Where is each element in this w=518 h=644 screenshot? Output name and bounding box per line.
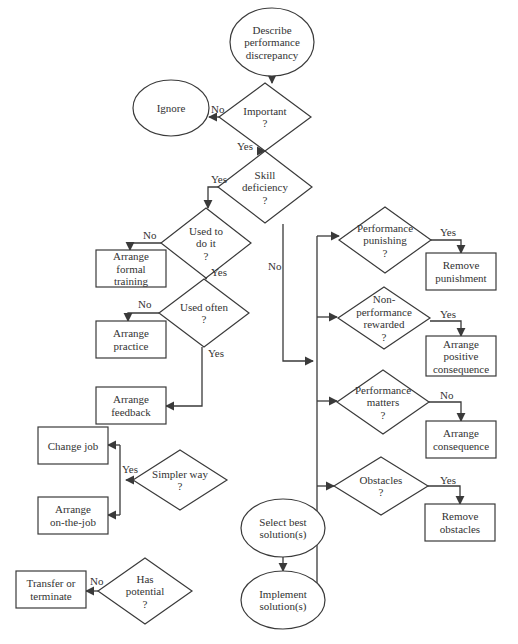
node-perf-matters: Performancematters?: [337, 370, 429, 434]
node-label: ?: [143, 598, 148, 610]
edge-label: No: [90, 575, 104, 587]
node-implement: Implementsolution(s): [241, 571, 325, 629]
node-label: Change job: [48, 440, 99, 452]
node-label: Select best: [259, 516, 306, 528]
node-label: ?: [382, 331, 387, 343]
node-arrange-consequence: Arrangeconsequence: [426, 421, 496, 458]
node-label: Important: [243, 105, 286, 117]
node-label: Performance: [355, 384, 411, 396]
node-label: on-the-job: [50, 516, 96, 528]
node-label: Used often: [180, 301, 228, 313]
node-label: solution(s): [259, 600, 306, 613]
node-label: punishing: [363, 234, 407, 246]
node-label: potential: [126, 585, 165, 597]
edge-label: Yes: [440, 308, 456, 320]
node-label: practice: [114, 340, 149, 352]
node-layer: DescribeperformancediscrepancyImportant?…: [16, 8, 496, 629]
connector-punishing-remove: [431, 240, 461, 253]
connector-rewarded-positive: [430, 321, 461, 336]
node-select-best: Select bestsolution(s): [241, 499, 325, 557]
connector-obstacles-remove: [428, 486, 460, 504]
node-label: Obstacles: [360, 474, 403, 486]
node-label: Arrange: [443, 338, 479, 350]
node-describe: Describeperformancediscrepancy: [230, 8, 314, 76]
node-label: Arrange: [55, 503, 91, 515]
node-label: training: [114, 275, 149, 287]
node-label: solution(s): [259, 528, 306, 541]
node-transfer: Transfer orterminate: [16, 571, 86, 608]
node-label: consequence: [433, 363, 489, 375]
node-label: Arrange: [113, 327, 149, 339]
connector-usedoften-feedback: [166, 347, 202, 406]
node-label: feedback: [111, 406, 151, 418]
connector-matters-consequence: [429, 402, 461, 421]
node-important: Important?: [219, 83, 311, 151]
edge-label: No: [440, 389, 454, 401]
node-label: Skill: [255, 169, 276, 181]
node-label: Non-: [373, 293, 396, 305]
node-label: ?: [383, 247, 388, 259]
node-label: ?: [204, 250, 209, 262]
node-label: formal: [116, 263, 145, 275]
node-label: ?: [263, 194, 268, 206]
node-practice: Arrangepractice: [96, 321, 166, 358]
node-has-potential: Haspotential?: [98, 558, 192, 624]
connector-skill-no-trunk: [283, 224, 313, 361]
node-label: Performance: [357, 222, 413, 234]
node-label: matters: [367, 396, 399, 408]
node-label: deficiency: [242, 181, 288, 193]
edge-label: No: [268, 260, 282, 272]
edge-label: Yes: [211, 266, 227, 278]
node-label: ?: [379, 486, 384, 498]
node-label: rewarded: [364, 318, 405, 330]
node-label: Arrange: [443, 427, 479, 439]
node-nonperf-rewarded: Non-performancerewarded?: [338, 287, 430, 349]
edge-label: Yes: [122, 463, 138, 475]
node-label: Used to: [189, 225, 223, 237]
node-label: discrepancy: [246, 49, 299, 61]
edge-label: Yes: [211, 173, 227, 185]
node-on-the-job: Arrangeon-the-job: [38, 497, 108, 534]
node-perf-punishing: Performancepunishing?: [339, 207, 431, 273]
node-label: punishment: [435, 272, 486, 284]
node-feedback: Arrangefeedback: [96, 387, 166, 424]
node-label: Simpler way: [152, 468, 208, 480]
edge-label: Yes: [237, 140, 253, 152]
edge-label: No: [138, 298, 152, 310]
edge-label: No: [143, 229, 157, 241]
node-obstacles: Obstacles?: [334, 457, 428, 515]
node-label: Remove: [443, 259, 480, 271]
node-used-often: Used often?: [159, 279, 249, 347]
edge-label: Yes: [208, 347, 224, 359]
node-label: ?: [178, 480, 183, 492]
connector-usedoften-practice: [128, 313, 159, 321]
node-label: performance: [356, 306, 412, 318]
node-skill: Skilldeficiency?: [218, 151, 312, 223]
node-label: performance: [244, 36, 300, 48]
node-label: Implement: [259, 588, 307, 600]
node-label: Arrange: [113, 250, 149, 262]
node-label: ?: [381, 409, 386, 421]
edge-label: Yes: [440, 474, 456, 486]
node-ignore: Ignore: [133, 80, 209, 136]
connector-usedto-formal: [130, 243, 161, 250]
node-label: Arrange: [113, 393, 149, 405]
edge-label: No: [211, 103, 225, 115]
node-label: positive: [444, 350, 479, 362]
node-positive-consequence: Arrangepositiveconsequence: [426, 336, 496, 376]
node-label: ?: [202, 313, 207, 325]
node-label: Describe: [252, 24, 291, 36]
node-label: Has: [136, 573, 153, 585]
node-label: Remove: [442, 510, 479, 522]
node-label: do it: [196, 237, 216, 249]
connector-skill-usedto: [208, 187, 218, 208]
edge-label: Yes: [440, 226, 456, 238]
node-label: Transfer or: [27, 577, 76, 589]
node-remove-obstacles: Removeobstacles: [425, 504, 495, 541]
performance-analysis-flowchart: DescribeperformancediscrepancyImportant?…: [0, 0, 518, 644]
node-label: ?: [263, 117, 268, 129]
node-label: obstacles: [440, 523, 480, 535]
node-label: Ignore: [157, 102, 186, 114]
node-label: terminate: [30, 590, 72, 602]
node-label: consequence: [433, 440, 489, 452]
